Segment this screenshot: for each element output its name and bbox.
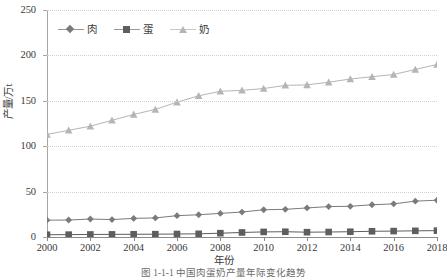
gridline-horizontal	[47, 146, 437, 147]
data-point-marker	[239, 229, 246, 236]
data-point-marker	[325, 229, 332, 236]
data-point-marker	[239, 209, 246, 216]
y-tick-mark	[43, 10, 47, 11]
y-tick-mark	[43, 101, 47, 102]
diamond-marker-icon	[58, 25, 84, 34]
data-point-marker	[347, 228, 354, 235]
y-tick-mark	[43, 146, 47, 147]
y-tick-label: 0	[31, 232, 36, 243]
data-point-marker	[260, 206, 267, 213]
y-tick-mark	[43, 192, 47, 193]
y-tick-label: 100	[21, 141, 36, 152]
data-point-marker	[65, 217, 72, 224]
data-point-marker	[109, 231, 116, 237]
x-tick-mark	[350, 237, 351, 241]
x-tick-label: 2002	[80, 242, 101, 253]
data-point-marker	[130, 215, 137, 222]
x-tick-label: 2012	[297, 242, 318, 253]
data-point-marker	[434, 227, 437, 234]
data-point-marker	[152, 106, 160, 113]
data-point-marker	[390, 200, 397, 207]
x-tick-mark	[264, 237, 265, 241]
y-tick-label: 200	[21, 50, 36, 61]
data-point-marker	[433, 61, 437, 68]
data-point-marker	[434, 197, 437, 204]
series-layer	[47, 10, 437, 237]
data-point-marker	[282, 228, 289, 235]
legend-label-milk: 奶	[199, 24, 209, 35]
y-tick-label: 250	[21, 5, 36, 16]
x-axis-title: 年份	[0, 255, 447, 266]
data-point-marker	[369, 228, 376, 235]
x-tick-mark	[90, 237, 91, 241]
x-tick-mark	[220, 237, 221, 241]
data-point-marker	[109, 216, 116, 223]
data-point-marker	[390, 228, 397, 235]
x-tick-label: 2008	[210, 242, 231, 253]
gridline-horizontal	[47, 101, 437, 102]
x-tick-label: 2000	[37, 242, 58, 253]
square-marker-icon	[114, 25, 140, 34]
series-line	[47, 64, 437, 134]
data-point-marker	[195, 211, 202, 218]
data-point-marker	[195, 231, 202, 237]
series-square	[47, 227, 437, 237]
data-point-marker	[304, 229, 311, 236]
data-point-marker	[369, 201, 376, 208]
y-axis-title: 产量/万t	[3, 60, 14, 144]
figure-caption: 图 1-1-1 中国肉蛋奶产量年际变化趋势	[0, 268, 447, 279]
data-point-marker	[47, 217, 50, 224]
x-tick-mark	[177, 237, 178, 241]
data-point-marker	[217, 210, 224, 217]
legend-label-egg: 蛋	[143, 24, 153, 35]
legend-label-meat: 肉	[87, 24, 97, 35]
legend-item-meat: 肉	[58, 24, 97, 35]
data-point-marker	[282, 206, 289, 213]
triangle-marker-icon	[170, 25, 196, 34]
gridline-horizontal	[47, 10, 437, 11]
data-point-marker	[260, 229, 267, 236]
data-point-marker	[325, 203, 332, 210]
gridline-horizontal	[47, 192, 437, 193]
x-axis-line	[47, 237, 438, 238]
x-tick-label: 2004	[123, 242, 144, 253]
x-tick-mark	[307, 237, 308, 241]
x-tick-mark	[394, 237, 395, 241]
x-tick-label: 2010	[253, 242, 274, 253]
data-point-marker	[412, 228, 419, 235]
x-tick-mark	[437, 237, 438, 241]
x-tick-mark	[47, 237, 48, 241]
x-tick-mark	[134, 237, 135, 241]
data-point-marker	[412, 198, 419, 205]
data-point-marker	[87, 216, 94, 223]
plot-area	[47, 10, 437, 237]
series-triangle	[47, 61, 437, 138]
chart-legend: 肉 蛋 奶	[58, 24, 209, 35]
x-tick-label: 2018	[427, 242, 447, 253]
gridline-horizontal	[47, 55, 437, 56]
y-tick-label: 150	[21, 96, 36, 107]
data-point-marker	[217, 230, 224, 237]
data-point-marker	[174, 212, 181, 219]
series-diamond	[47, 197, 437, 224]
data-point-marker	[152, 215, 159, 222]
y-tick-label: 50	[26, 187, 36, 198]
data-point-marker	[65, 231, 72, 237]
y-tick-mark	[43, 55, 47, 56]
legend-item-egg: 蛋	[114, 24, 153, 35]
data-point-marker	[152, 231, 159, 237]
data-point-marker	[347, 203, 354, 210]
data-point-marker	[304, 205, 311, 212]
x-tick-label: 2006	[167, 242, 188, 253]
x-tick-label: 2014	[340, 242, 361, 253]
x-tick-label: 2016	[383, 242, 404, 253]
legend-item-milk: 奶	[170, 24, 209, 35]
